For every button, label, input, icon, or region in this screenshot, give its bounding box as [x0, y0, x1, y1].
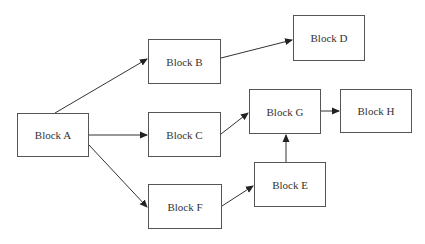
- block-a: Block A: [17, 113, 89, 157]
- block-f: Block F: [148, 184, 222, 229]
- arrow-a-to-f: [89, 145, 147, 207]
- block-d: Block D: [293, 15, 365, 61]
- block-h-label: Block H: [358, 105, 395, 117]
- block-b: Block B: [148, 39, 221, 84]
- arrow-a-to-b: [55, 59, 147, 113]
- arrow-b-to-d: [221, 40, 292, 58]
- arrow-f-to-e: [222, 186, 253, 206]
- block-c: Block C: [148, 112, 221, 157]
- block-a-label: Block A: [35, 129, 71, 141]
- arrow-c-to-g: [221, 113, 248, 134]
- block-b-label: Block B: [166, 56, 202, 68]
- block-g: Block G: [249, 89, 321, 134]
- block-d-label: Block D: [311, 32, 348, 44]
- block-c-label: Block C: [166, 129, 202, 141]
- block-e-label: Block E: [272, 179, 308, 191]
- block-h: Block H: [340, 89, 412, 133]
- block-g-label: Block G: [267, 106, 304, 118]
- diagram-canvas: Block A Block B Block C Block F Block D …: [0, 0, 425, 244]
- block-e: Block E: [254, 162, 326, 207]
- block-f-label: Block F: [167, 201, 202, 213]
